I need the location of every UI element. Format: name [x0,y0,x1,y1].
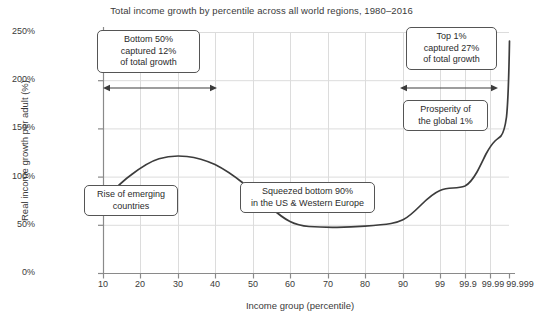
x-axis-ticks [104,274,510,279]
bottom-50-range-arrow [103,85,217,91]
annotation-emerging-countries: Rise of emerging countries [84,185,178,216]
annotation-bottom-50: Bottom 50% captured 12% of total growth [97,30,200,73]
annotation-squeezed-bottom-90: Squeezed bottom 90% in the US & Western … [240,182,375,213]
annotation-top-1: Top 1% captured 27% of total growth [406,27,497,70]
annotation-prosperity: Prosperity of the global 1% [403,100,488,131]
top-1-range-arrow [400,85,498,91]
